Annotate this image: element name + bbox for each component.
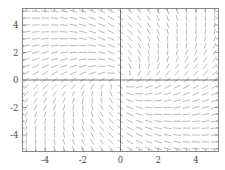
y-tick-label: 2 <box>13 48 18 57</box>
y-tick-label: 4 <box>13 21 18 30</box>
x-tick-label: 2 <box>155 156 160 165</box>
x-tick-label: -4 <box>41 156 49 165</box>
x-tick-label: -2 <box>79 156 87 165</box>
x-tick-label: 4 <box>193 156 198 165</box>
origin-axes <box>23 9 219 152</box>
y-tick-label: -4 <box>10 131 18 140</box>
slope-field-figure: -4-2024 -4-2024 <box>0 0 225 170</box>
y-tick-label: 0 <box>13 76 18 85</box>
x-tick-label: 0 <box>118 156 123 165</box>
plot-canvas <box>0 0 225 170</box>
y-tick-label: -2 <box>10 103 18 112</box>
